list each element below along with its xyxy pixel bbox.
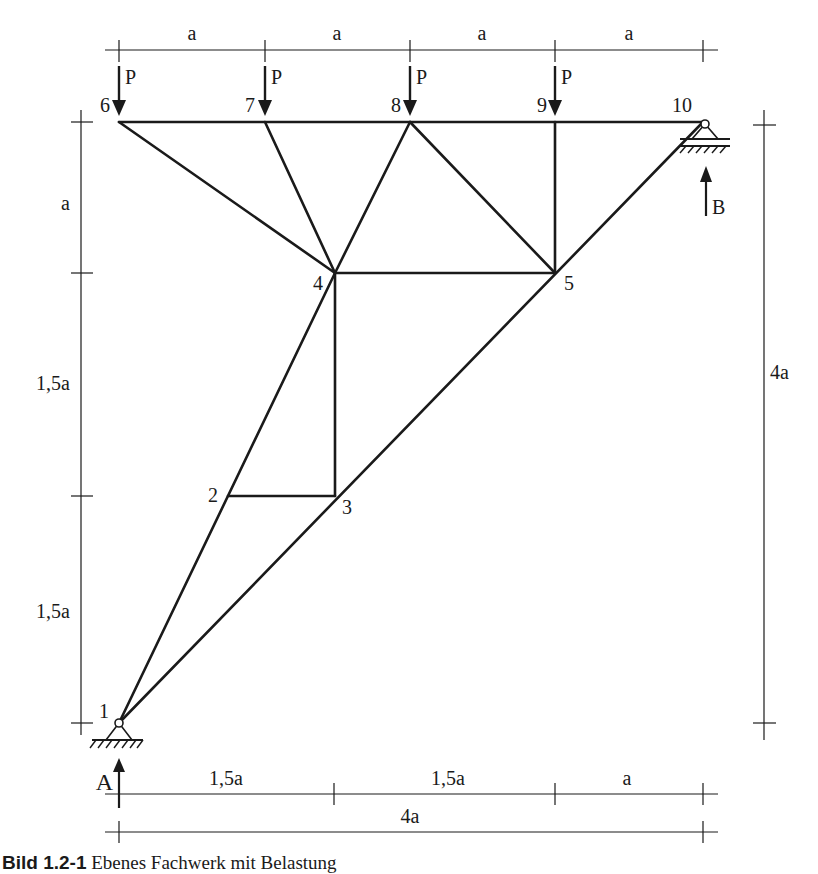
load-label: P bbox=[561, 66, 572, 88]
dim-top-2: a bbox=[333, 22, 342, 44]
node-label-7: 7 bbox=[245, 94, 255, 116]
node-label-6: 6 bbox=[100, 94, 110, 116]
load-label: P bbox=[416, 66, 427, 88]
dim-bottom-2: 1,5a bbox=[431, 767, 465, 789]
caption-prefix: Bild 1.2-1 bbox=[2, 852, 86, 873]
reaction-label-a: A bbox=[96, 769, 114, 795]
member-4-7 bbox=[265, 122, 335, 273]
node-label-1: 1 bbox=[99, 700, 109, 722]
load-arrow-node-8: P bbox=[403, 66, 427, 116]
bottom-dimension-lines: 1,5a 1,5a a 4a bbox=[105, 767, 718, 843]
dim-bottom-1: 1,5a bbox=[209, 767, 243, 789]
reaction-label-b: B bbox=[712, 196, 725, 218]
dim-right-total: 4a bbox=[770, 361, 789, 383]
node-label-3: 3 bbox=[342, 496, 352, 518]
member-8-5 bbox=[410, 122, 555, 273]
load-arrow-node-6: P bbox=[112, 66, 136, 116]
figure-caption: Bild 1.2-1 Ebenes Fachwerk mit Belastung bbox=[2, 852, 337, 874]
dim-left-1: a bbox=[61, 192, 70, 214]
node-label-8: 8 bbox=[391, 94, 401, 116]
node-labels: 1 2 3 4 5 6 7 8 9 10 bbox=[99, 94, 692, 722]
dim-top-4: a bbox=[625, 22, 634, 44]
load-label: P bbox=[271, 66, 282, 88]
node-label-5: 5 bbox=[564, 272, 574, 294]
truss-members bbox=[119, 122, 703, 723]
top-dimension-line: a a a a bbox=[105, 22, 718, 62]
member-1-2-4 bbox=[119, 273, 335, 723]
member-4-8 bbox=[335, 122, 410, 273]
support-b-roller: B bbox=[680, 120, 730, 218]
member-4-6 bbox=[119, 122, 335, 273]
dim-top-1: a bbox=[188, 22, 197, 44]
right-dimension-line: 4a bbox=[753, 110, 789, 740]
dim-left-2: 1,5a bbox=[36, 372, 70, 394]
dim-left-3: 1,5a bbox=[36, 600, 70, 622]
node-label-2: 2 bbox=[208, 484, 218, 506]
node-label-9: 9 bbox=[537, 94, 547, 116]
node-label-10: 10 bbox=[672, 94, 692, 116]
load-label: P bbox=[125, 66, 136, 88]
dim-top-3: a bbox=[478, 22, 487, 44]
node-label-4: 4 bbox=[313, 272, 323, 294]
left-dimension-line: a 1,5a 1,5a bbox=[36, 110, 93, 735]
caption-text: Ebenes Fachwerk mit Belastung bbox=[91, 852, 336, 873]
load-arrow-node-7: P bbox=[258, 66, 282, 116]
loads: P P P P bbox=[112, 66, 572, 116]
member-1-3-5-10 bbox=[119, 122, 703, 723]
support-a-pin: A bbox=[90, 719, 143, 808]
dim-bottom-total: 4a bbox=[401, 805, 420, 827]
load-arrow-node-9: P bbox=[548, 66, 572, 116]
dim-bottom-3: a bbox=[623, 767, 632, 789]
